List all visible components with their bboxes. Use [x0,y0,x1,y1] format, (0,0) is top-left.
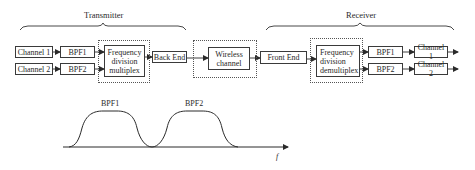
rx-channel-1-box: Channel 1 [414,46,448,58]
demux-line-3: demultiplex [320,66,358,75]
tx-channel-2-box: Channel 2 [15,63,53,75]
bpf2-response-curve [152,111,238,147]
demux-line-1: Frequency [320,48,354,57]
tx-bpf1-box: BPF1 [60,46,95,58]
bpf1-response-curve [69,111,152,147]
transmitter-label: Transmitter [84,11,123,20]
rx-bpf1-box: BPF1 [368,46,403,58]
tx-bpf2-box: BPF2 [60,63,95,75]
transmitter-brace [20,23,186,30]
frequency-axis-label: f [276,153,278,161]
mux-line-3: multiplex [109,66,140,75]
bpf1-peak-label: BPF1 [101,100,119,108]
front-end-box: Front End [260,51,307,64]
mux-line-1: Frequency [108,48,142,57]
frequency-division-multiplex-box: Frequency division multiplex [104,45,145,77]
back-end-box: Back End [152,51,187,63]
demux-line-2: division [320,57,346,66]
rx-bpf2-box: BPF2 [368,63,403,75]
receiver-label: Receiver [346,11,376,20]
wireless-channel-box: Wireless channel [208,47,250,70]
rx-channel-2-box: Channel 2 [414,63,448,75]
wireless-line-2: channel [217,59,242,68]
receiver-brace [266,23,454,30]
frequency-division-demultiplex-box: Frequency division demultiplex [316,45,360,77]
bpf2-peak-label: BPF2 [185,100,203,108]
diagram-canvas [0,0,475,170]
tx-channel-1-box: Channel 1 [15,46,53,58]
mux-line-2: division [112,57,138,66]
wireless-line-1: Wireless [215,50,243,59]
